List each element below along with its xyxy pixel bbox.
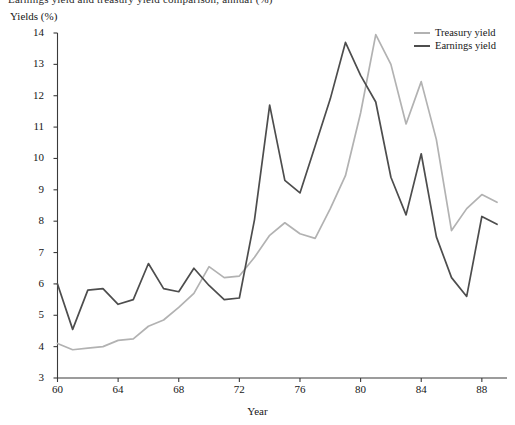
axis-tick-marks (54, 33, 482, 382)
legend-swatch-icon (414, 45, 430, 47)
legend-item[interactable]: Earnings yield (414, 39, 514, 52)
plot-area (0, 0, 515, 425)
data-series-lines (58, 35, 498, 350)
legend-item[interactable]: Treasury yield (414, 26, 514, 39)
legend-label: Earnings yield (435, 40, 496, 51)
axis-lines (58, 33, 508, 378)
chart-legend: Treasury yieldEarnings yield (414, 26, 514, 52)
series-line-earnings-yield (58, 42, 498, 329)
chart-figure: Earnings yield and treasury yield compar… (0, 0, 515, 425)
legend-swatch-icon (414, 32, 430, 34)
legend-label: Treasury yield (435, 27, 496, 38)
